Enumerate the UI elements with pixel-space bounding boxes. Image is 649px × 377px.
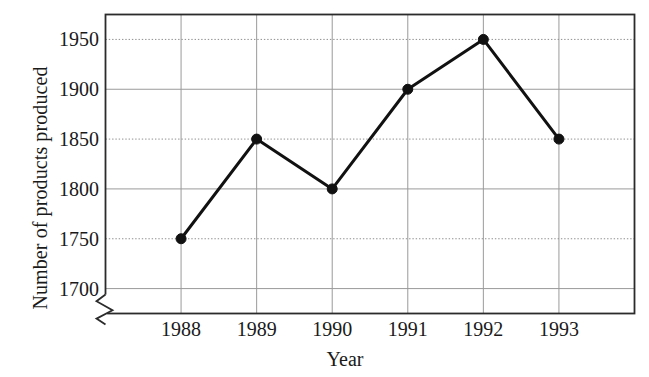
data-point-marker [327, 184, 337, 194]
data-point-marker [554, 134, 564, 144]
y-gridlines [106, 39, 635, 288]
data-point-marker [478, 34, 488, 44]
data-point-marker [176, 234, 186, 244]
data-point-marker [252, 134, 262, 144]
plot-frame [106, 15, 635, 314]
line-chart: Number of products produced 170017501800… [0, 0, 649, 377]
axis-break-zigzag-icon [97, 295, 113, 325]
data-point-marker [403, 84, 413, 94]
plot-area [0, 0, 649, 377]
